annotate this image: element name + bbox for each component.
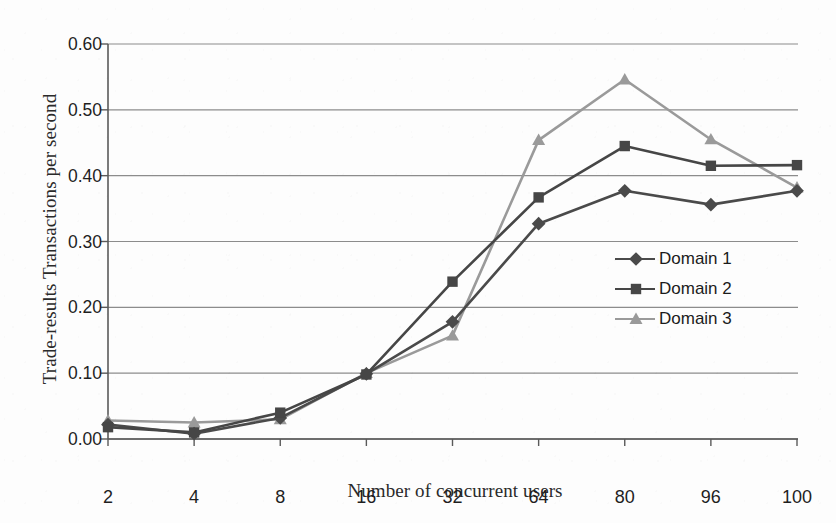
- y-tick-label: 0.30: [48, 232, 102, 253]
- x-tick-label: 100: [767, 487, 827, 508]
- x-tick-label: 64: [509, 487, 569, 508]
- legend-label: Domain 2: [659, 279, 732, 299]
- x-tick-label: 4: [164, 487, 224, 508]
- y-axis-tick-labels: 0.000.100.200.300.400.500.60: [40, 44, 102, 439]
- legend-label: Domain 1: [659, 249, 732, 269]
- x-tick-label: 96: [681, 487, 741, 508]
- y-tick-label: 0.10: [48, 363, 102, 384]
- y-tick-label: 0.40: [48, 166, 102, 187]
- legend-marker-triangle-icon: [613, 308, 657, 330]
- x-tick-label: 8: [250, 487, 310, 508]
- chart-legend: Domain 1Domain 2Domain 3: [613, 246, 753, 334]
- y-tick-label: 0.60: [48, 34, 102, 55]
- legend-marker-diamond-icon: [613, 248, 657, 270]
- y-tick-label: 0.20: [48, 297, 102, 318]
- legend-marker-glyph: [628, 312, 644, 328]
- data-point-marker: [631, 284, 641, 294]
- legend-item-1[interactable]: Domain 1: [613, 246, 753, 272]
- legend-item-2[interactable]: Domain 2: [613, 276, 753, 302]
- x-tick-label: 32: [423, 487, 483, 508]
- legend-marker-glyph: [628, 282, 644, 298]
- x-tick-label: 80: [595, 487, 655, 508]
- data-point-marker: [629, 252, 643, 266]
- legend-item-3[interactable]: Domain 3: [613, 306, 753, 332]
- x-tick-label: 16: [336, 487, 396, 508]
- y-tick-label: 0.50: [48, 100, 102, 121]
- x-tick-label: 2: [78, 487, 138, 508]
- chart-figure: Trade-results Transactions per second Nu…: [0, 0, 836, 523]
- y-tick-label: 0.00: [48, 429, 102, 450]
- data-point-marker: [630, 313, 643, 324]
- legend-marker-glyph: [628, 252, 644, 268]
- legend-marker-square-icon: [613, 278, 657, 300]
- legend-label: Domain 3: [659, 309, 732, 329]
